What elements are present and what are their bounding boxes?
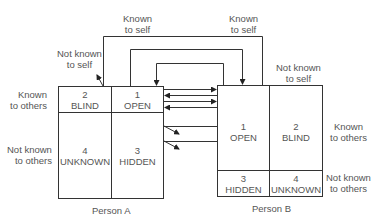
quadrant-number: 1: [218, 121, 269, 132]
quadrant-b-hidden: 3 HIDDEN: [218, 173, 269, 195]
quadrant-name: BLIND: [59, 100, 111, 111]
label-line: Not known: [57, 48, 102, 59]
quadrant-name: UNKNOWN: [59, 156, 111, 167]
diagram-canvas: [0, 0, 381, 224]
quadrant-number: 3: [218, 173, 269, 184]
quadrant-a-hidden: 3 HIDDEN: [112, 145, 163, 167]
label-b-known-to-self: Known to self: [229, 13, 258, 35]
label-line: Not known: [276, 62, 321, 73]
label-line: to others: [326, 183, 371, 194]
quadrant-number: 2: [59, 89, 111, 100]
quadrant-b-open: 1 OPEN: [218, 121, 269, 143]
label-line: to self: [57, 59, 102, 70]
quadrant-name: HIDDEN: [112, 156, 163, 167]
label-line: to self: [229, 24, 258, 35]
label-line: Known: [229, 13, 258, 24]
label-line: to others: [10, 100, 47, 111]
label-a-known-to-others: Known to others: [10, 89, 47, 111]
connector-outer: [104, 37, 263, 87]
label-b-known-to-others: Known to others: [330, 121, 367, 143]
arrow-hidden-1: [164, 126, 179, 134]
quadrant-b-blind: 2 BLIND: [270, 121, 322, 143]
label-line: to others: [7, 155, 52, 166]
arrow-not-known-to-self: [97, 75, 103, 86]
label-line: Known: [123, 13, 152, 24]
label-line: Known: [10, 89, 47, 100]
label-line: to self: [123, 24, 152, 35]
label-line: Not known: [326, 172, 371, 183]
connector-inner: [157, 64, 224, 86]
quadrant-a-unknown: 4 UNKNOWN: [59, 145, 111, 167]
label-a-not-known-to-others: Not known to others: [7, 144, 52, 166]
quadrant-b-unknown: 4 UNKNOWN: [270, 173, 322, 195]
quadrant-number: 4: [270, 173, 322, 184]
caption-person-b: Person B: [252, 203, 291, 214]
caption-person-a: Person A: [92, 205, 131, 216]
quadrant-number: 4: [59, 145, 111, 156]
quadrant-name: OPEN: [112, 100, 163, 111]
quadrant-name: BLIND: [270, 132, 322, 143]
connector-middle: [131, 50, 243, 87]
label-b-not-known-to-others: Not known to others: [326, 172, 371, 194]
quadrant-number: 3: [112, 145, 163, 156]
label-line: to self: [276, 73, 321, 84]
label-line: Known: [330, 121, 367, 132]
label-b-not-known-to-self: Not known to self: [276, 62, 321, 84]
label-a-not-known-to-self: Not known to self: [57, 48, 102, 70]
quadrant-a-open: 1 OPEN: [112, 89, 163, 111]
quadrant-number: 1: [112, 89, 163, 100]
label-a-known-to-self: Known to self: [123, 13, 152, 35]
label-line: to others: [330, 132, 367, 143]
arrow-hidden-2: [164, 141, 179, 149]
quadrant-name: HIDDEN: [218, 184, 269, 195]
quadrant-a-blind: 2 BLIND: [59, 89, 111, 111]
quadrant-name: UNKNOWN: [270, 184, 322, 195]
label-line: Not known: [7, 144, 52, 155]
quadrant-name: OPEN: [218, 132, 269, 143]
quadrant-number: 2: [270, 121, 322, 132]
